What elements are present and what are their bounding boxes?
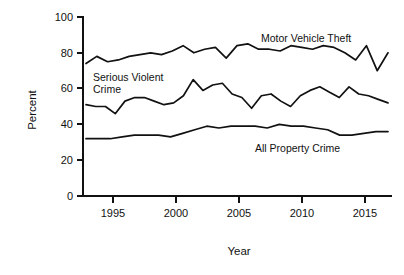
x-tick-label-2000: 2000 [164,207,188,219]
x-tick-label-2010: 2010 [290,207,314,219]
series-line-motor-vehicle-theft [86,44,388,71]
y-tick-label-60: 60 [61,82,73,94]
series-label-all-property-crime: All Property Crime [255,142,340,154]
y-axis-title: Percent [26,89,38,129]
x-tick-label-2005: 2005 [227,207,251,219]
chart-figure: 100 80 60 40 20 0 1995 2000 2005 2010 20… [0,0,404,275]
line-chart-svg: 100 80 60 40 20 0 1995 2000 2005 2010 20… [0,0,404,275]
y-tick-label-0: 0 [67,190,73,202]
x-tick-label-2015: 2015 [353,207,377,219]
series-label-serious-violent-crime-line1: Serious Violent [93,71,164,83]
series-line-serious-violent-crime [86,80,388,114]
y-tick-label-100: 100 [55,11,73,23]
y-tick-label-80: 80 [61,47,73,59]
y-tick-label-20: 20 [61,154,73,166]
series-line-all-property-crime [86,124,388,138]
series-label-serious-violent-crime-line2: Crime [93,83,121,95]
series-label-motor-vehicle-theft: Motor Vehicle Theft [261,32,351,44]
y-tick-label-40: 40 [61,118,73,130]
x-axis-title: Year [227,245,250,257]
x-tick-label-1995: 1995 [101,207,125,219]
